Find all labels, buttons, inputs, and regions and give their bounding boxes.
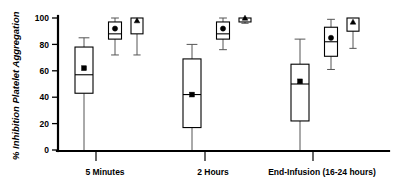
- y-tick-label-100: 100: [35, 13, 49, 23]
- mean-marker-circle: [220, 26, 225, 31]
- x-category-label-2: End-Infusion (16-24 hours): [268, 167, 376, 177]
- y-axis-title: % Inhibition Platelet Aggregation: [10, 11, 21, 160]
- boxplot-box-2-group-1: [217, 18, 230, 50]
- boxplot-box-3-group-1: [239, 15, 251, 23]
- boxplot-box-2-group-2: [325, 19, 338, 69]
- y-axis-ticks: 100 80 60 40 20 0: [35, 13, 58, 155]
- mean-marker-square: [298, 79, 303, 84]
- mean-marker-square: [190, 92, 195, 97]
- y-tick-label-60: 60: [40, 66, 50, 76]
- mean-marker-square: [82, 66, 87, 71]
- x-axis-group-ticks: [96, 151, 313, 161]
- x-category-label-1: 2 Hours: [197, 167, 229, 177]
- y-tick-label-80: 80: [40, 40, 50, 50]
- y-tick-label-20: 20: [40, 119, 50, 129]
- boxplot-figure: % Inhibition Platelet Aggregation 100 80…: [0, 0, 398, 191]
- mean-marker-circle: [328, 35, 333, 40]
- boxplot-box-1-group-1: [183, 44, 201, 150]
- boxplot-box-1-group-2: [291, 39, 309, 150]
- boxplot-series-layer: [75, 15, 359, 150]
- chart-canvas: % Inhibition Platelet Aggregation 100 80…: [0, 0, 398, 191]
- y-tick-label-0: 0: [44, 145, 49, 155]
- mean-marker-circle: [112, 26, 117, 31]
- boxplot-box-2-group-0: [109, 18, 122, 55]
- y-tick-label-40: 40: [40, 92, 50, 102]
- box-body: [291, 64, 309, 121]
- boxplot-box-3-group-0: [131, 18, 143, 55]
- boxplot-box-3-group-2: [347, 18, 359, 48]
- x-category-label-0: 5 Minutes: [85, 167, 124, 177]
- boxplot-box-1-group-0: [75, 38, 93, 150]
